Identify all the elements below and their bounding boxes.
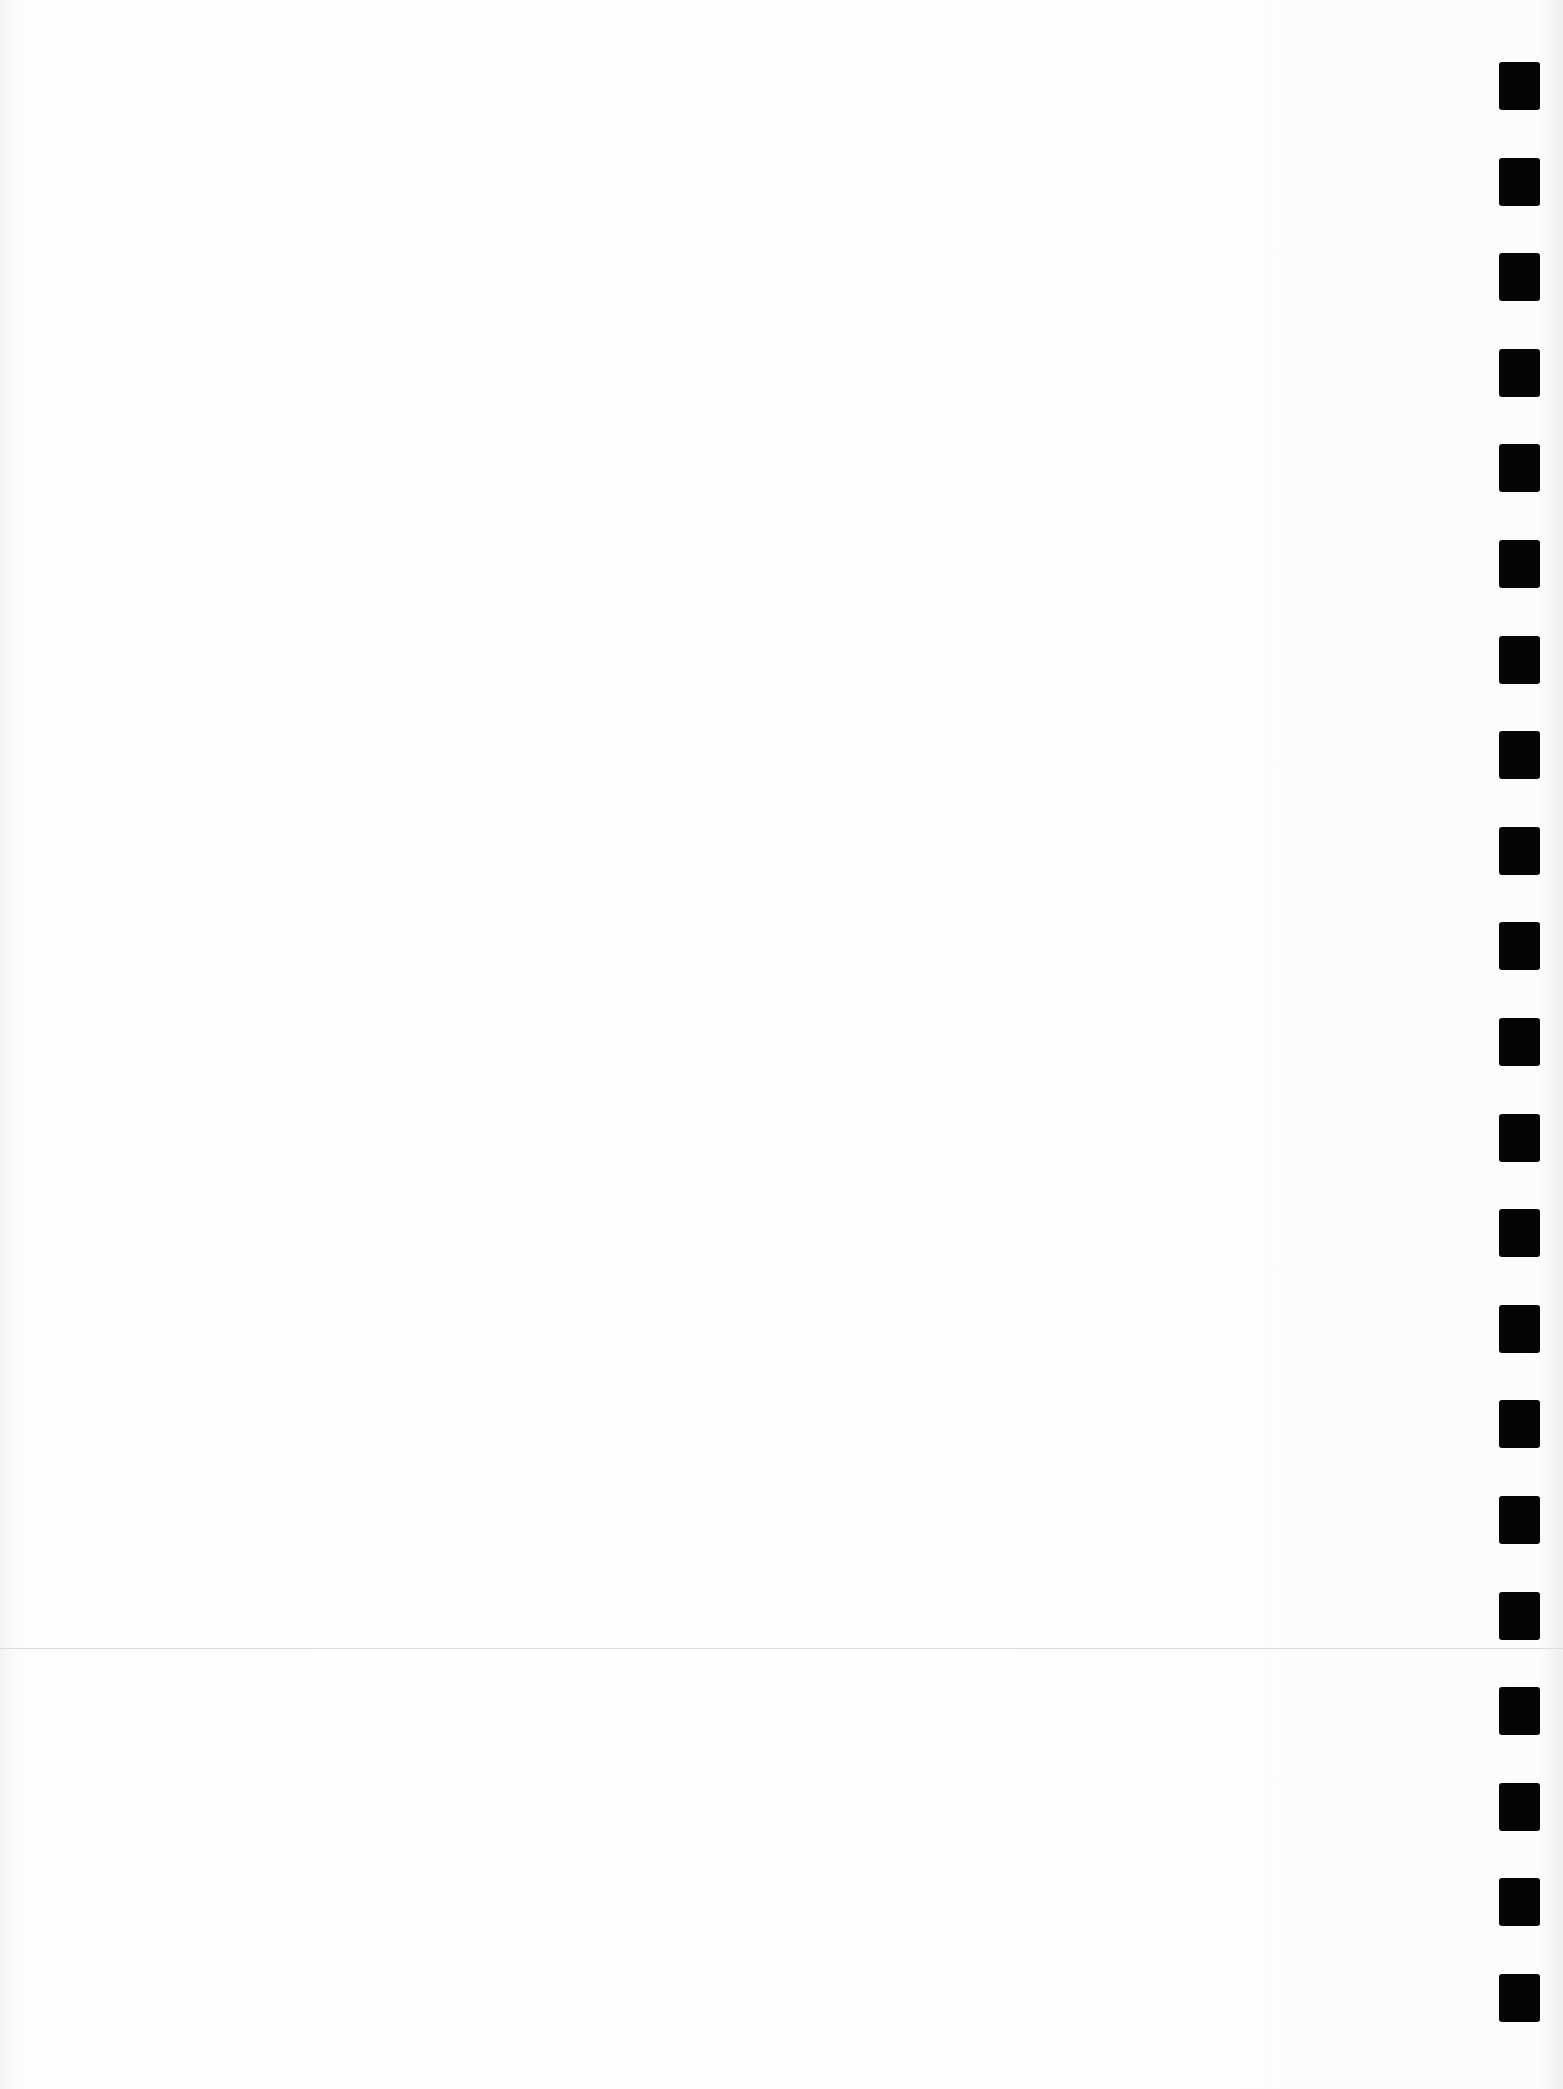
timing-mark (1499, 1496, 1540, 1544)
timing-mark (1499, 1209, 1540, 1257)
timing-mark (1499, 444, 1540, 492)
timing-mark (1499, 1878, 1540, 1926)
timing-mark (1499, 1783, 1540, 1831)
timing-mark (1499, 349, 1540, 397)
horizontal-divider-line (0, 1648, 1563, 1649)
timing-mark (1499, 922, 1540, 970)
timing-mark (1499, 636, 1540, 684)
timing-mark (1499, 158, 1540, 206)
timing-mark (1499, 1305, 1540, 1353)
timing-mark (1499, 1018, 1540, 1066)
timing-mark (1499, 540, 1540, 588)
timing-mark (1499, 62, 1540, 110)
timing-mark (1499, 253, 1540, 301)
timing-mark (1499, 731, 1540, 779)
timing-mark (1499, 1687, 1540, 1735)
scanned-page (0, 0, 1563, 2089)
timing-mark (1499, 1974, 1540, 2022)
timing-mark (1499, 827, 1540, 875)
timing-mark (1499, 1592, 1540, 1640)
timing-mark (1499, 1114, 1540, 1162)
timing-mark (1499, 1400, 1540, 1448)
